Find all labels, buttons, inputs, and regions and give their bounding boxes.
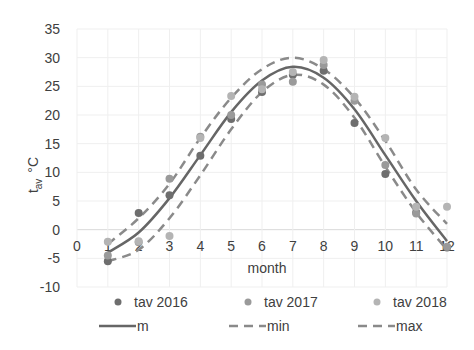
legend-item: max — [358, 318, 422, 334]
data-point-tav-2017 — [412, 210, 420, 218]
y-axis-title-unit: °C — [25, 157, 41, 173]
x-tick-label: 7 — [289, 238, 297, 254]
legend-label: m — [137, 318, 149, 334]
data-point-tav-2017 — [289, 78, 297, 86]
data-point-tav-2016 — [166, 191, 174, 199]
x-tick-label: 8 — [320, 238, 328, 254]
y-tick-label: 25 — [44, 78, 60, 94]
data-point-tav-2016 — [351, 119, 359, 127]
data-point-tav-2018 — [381, 134, 389, 142]
data-point-tav-2016 — [381, 170, 389, 178]
y-axis-title-sub: av — [33, 179, 44, 190]
legend-label: max — [396, 318, 422, 334]
x-tick-label: 5 — [227, 238, 235, 254]
series-line-min — [108, 75, 447, 262]
data-point-tav-2017 — [443, 243, 451, 251]
legend: tav 2016tav 2017tav 2018mminmax — [99, 294, 447, 334]
x-tick-label: 10 — [378, 238, 394, 254]
chart-container: -10-505101520253035 0123456789101112 tav… — [0, 0, 474, 350]
legend-label: tav 2017 — [264, 294, 318, 310]
y-axis-title: tav°C — [25, 157, 44, 193]
temperature-chart: -10-505101520253035 0123456789101112 tav… — [0, 0, 474, 350]
legend-dot-icon — [115, 299, 122, 306]
data-point-tav-2017 — [166, 175, 174, 183]
series-lines — [108, 58, 447, 262]
data-point-tav-2018 — [320, 56, 328, 64]
series-line-m — [108, 67, 447, 253]
data-point-tav-2018 — [351, 93, 359, 101]
data-point-tav-2018 — [412, 203, 420, 211]
legend-item: m — [99, 318, 149, 334]
legend-dot-icon — [245, 299, 252, 306]
data-point-tav-2017 — [381, 161, 389, 169]
y-tick-label: 5 — [52, 193, 60, 209]
data-point-tav-2016 — [135, 209, 143, 217]
legend-dot-icon — [374, 299, 381, 306]
y-tick-label: 15 — [44, 136, 60, 152]
legend-item: min — [229, 318, 290, 334]
data-point-tav-2018 — [443, 203, 451, 211]
x-axis-title: month — [248, 260, 287, 276]
legend-item: tav 2018 — [374, 294, 447, 310]
data-point-tav-2018 — [289, 68, 297, 76]
y-tick-label: 30 — [44, 50, 60, 66]
y-tick-label: 0 — [52, 222, 60, 238]
legend-item: tav 2017 — [245, 294, 318, 310]
y-tick-label: 20 — [44, 107, 60, 123]
data-point-tav-2017 — [104, 251, 112, 259]
x-tick-label: 9 — [351, 238, 359, 254]
y-axis-tick-labels: -10-505101520253035 — [40, 21, 60, 295]
legend-item: tav 2016 — [115, 294, 188, 310]
legend-label: tav 2018 — [393, 294, 447, 310]
legend-label: min — [267, 318, 290, 334]
data-point-tav-2018 — [196, 134, 204, 142]
svg-text:tav°C: tav°C — [25, 157, 44, 193]
legend-label: tav 2016 — [134, 294, 188, 310]
data-point-tav-2018 — [104, 238, 112, 246]
x-tick-label: 11 — [409, 238, 424, 254]
data-point-tav-2018 — [166, 232, 174, 240]
y-tick-label: 35 — [44, 21, 60, 37]
y-tick-label: 10 — [44, 164, 60, 180]
x-tick-label: 4 — [196, 238, 204, 254]
x-tick-label: 0 — [73, 238, 81, 254]
data-point-tav-2018 — [227, 92, 235, 100]
series-line-max — [108, 58, 447, 244]
data-point-tav-2018 — [258, 85, 266, 93]
x-tick-label: 6 — [258, 238, 266, 254]
y-tick-label: -10 — [40, 279, 60, 295]
y-tick-label: -5 — [48, 250, 61, 266]
data-point-tav-2018 — [135, 237, 143, 245]
data-point-tav-2016 — [196, 152, 204, 160]
x-tick-label: 3 — [166, 238, 174, 254]
data-point-tav-2017 — [227, 111, 235, 119]
